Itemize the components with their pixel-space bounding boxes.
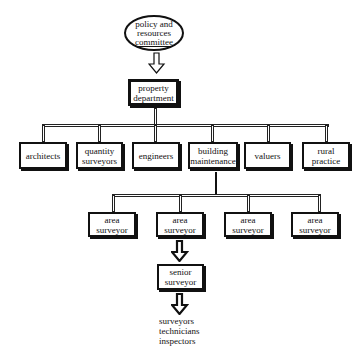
connector [247,195,250,212]
node-senior-surveyor: senior surveyor [157,264,204,290]
node-label: quantity [82,146,117,156]
connector [267,125,270,142]
connector [211,125,214,142]
node-label: surveyors [159,316,199,326]
node-engineers: engineers [132,142,180,169]
node-label: area [164,215,196,225]
connector [112,194,321,197]
node-property-department: property department [128,79,179,106]
connector [42,125,45,142]
node-label: rural [312,146,340,156]
node-rural-practice: rural practice [302,142,350,169]
node-label: area [232,215,264,225]
connector [325,125,328,142]
node-label: surveyor [164,225,196,235]
connector [179,195,182,212]
node-label: surveyor [165,277,197,287]
node-label: surveyor [232,225,264,235]
connector [42,124,329,127]
node-label: maintenance [190,156,235,166]
node-label: senior [165,267,197,277]
node-building-maintenance: building maintenance [188,142,238,169]
node-policy-resources-committee: policy and resources committee [124,15,184,51]
node-label: surveyor [299,225,331,235]
node-area-surveyor-4: area surveyor [291,212,339,237]
node-label: building [190,146,235,156]
node-label: architects [26,151,60,161]
node-staff-list: surveyors technicians inspectors [159,316,199,346]
node-label: department [133,93,173,103]
node-label: surveyors [82,156,117,166]
node-label: area [299,215,331,225]
node-architects: architects [19,142,67,169]
connector [154,125,157,142]
arrow-down-icon [171,240,189,262]
node-label: property [133,83,173,93]
node-area-surveyor-3: area surveyor [224,212,272,237]
connector [98,125,101,142]
node-label: inspectors [159,336,199,346]
arrow-down-icon [148,52,166,74]
node-area-surveyor-1: area surveyor [88,212,136,237]
connector [318,195,321,212]
node-label: valuers [255,151,281,161]
node-label: practice [312,156,340,166]
node-label: engineers [139,151,173,161]
node-label: technicians [159,326,199,336]
node-label: surveyor [96,225,128,235]
node-label: committee [135,38,173,47]
node-label: area [96,215,128,225]
node-valuers: valuers [244,142,291,169]
node-quantity-surveyors: quantity surveyors [76,142,123,169]
connector [112,195,115,212]
arrow-down-icon [171,293,189,315]
connector [215,172,217,196]
node-area-surveyor-2: area surveyor [156,212,204,237]
